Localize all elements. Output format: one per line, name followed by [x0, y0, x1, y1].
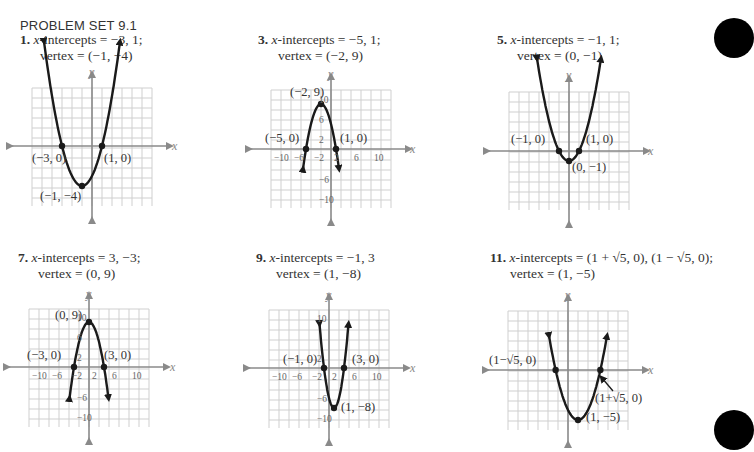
svg-text:−6: −6	[292, 372, 302, 382]
key-point	[303, 146, 309, 152]
svg-text:6: 6	[352, 372, 357, 382]
point-label: (−5, 0)	[265, 131, 299, 145]
y-axis-label: y	[564, 288, 571, 302]
point-label: (−2, 9)	[290, 85, 324, 99]
y-axis-label: y	[565, 68, 572, 82]
svg-text:−6: −6	[294, 153, 304, 163]
key-point	[59, 143, 65, 149]
key-point	[86, 319, 92, 325]
key-point	[101, 364, 107, 370]
svg-text:2: 2	[334, 153, 339, 163]
point-label: (0, −1)	[572, 160, 606, 174]
svg-text:6: 6	[77, 333, 82, 343]
svg-text:−10: −10	[77, 413, 92, 423]
y-axis-label: y	[325, 288, 332, 302]
svg-text:−6: −6	[52, 371, 62, 381]
svg-text:6: 6	[112, 371, 117, 381]
page-tab-marker-top	[714, 18, 754, 58]
svg-text:−10: −10	[272, 372, 287, 382]
point-label: (1, 0)	[104, 151, 131, 165]
key-point	[552, 367, 558, 373]
point-label: (1, −5)	[586, 410, 620, 424]
point-label: (−3, 0)	[27, 348, 61, 362]
svg-text:−2: −2	[314, 153, 324, 163]
svg-text:6: 6	[319, 115, 324, 125]
key-point	[99, 143, 105, 149]
x-axis-label: x	[169, 360, 176, 374]
point-label: (1−√5, 0)	[489, 353, 536, 367]
svg-text:10: 10	[372, 372, 382, 382]
svg-text:10: 10	[132, 371, 142, 381]
key-point	[341, 365, 347, 371]
svg-text:−10: −10	[317, 414, 332, 424]
point-label: (1, −8)	[341, 400, 375, 414]
svg-text:6: 6	[354, 153, 359, 163]
svg-text:2: 2	[332, 372, 337, 382]
svg-text:−10: −10	[32, 371, 47, 381]
svg-text:−10: −10	[319, 195, 334, 205]
point-label: (3, 0)	[352, 352, 379, 366]
point-label: (−1, 0)	[511, 132, 545, 146]
svg-text:−6: −6	[317, 394, 327, 404]
svg-text:−2: −2	[72, 371, 82, 381]
key-point	[576, 148, 582, 154]
x-axis-label: x	[647, 363, 654, 377]
y-axis-label: y	[88, 65, 95, 79]
svg-text:2: 2	[317, 354, 322, 364]
svg-text:−10: −10	[274, 153, 289, 163]
point-label: (−1, 0)	[283, 352, 317, 366]
point-label: (1, 0)	[586, 132, 613, 146]
key-point	[71, 364, 77, 370]
x-axis-label: x	[647, 144, 654, 158]
svg-text:10: 10	[374, 153, 384, 163]
svg-text:2: 2	[77, 353, 82, 363]
x-axis-label: x	[409, 361, 416, 375]
x-axis-label: x	[171, 139, 178, 153]
y-axis-label: y	[327, 67, 334, 81]
point-label: (0, 9)	[55, 308, 82, 322]
key-point	[556, 148, 562, 154]
y-axis-label: y	[85, 287, 92, 301]
graph-1: xy	[10, 42, 178, 220]
key-point	[321, 365, 327, 371]
point-label: (−1, −4)	[40, 189, 81, 203]
key-point	[597, 367, 603, 373]
page-tab-marker-bottom	[714, 410, 754, 450]
point-label: (3, 0)	[104, 348, 131, 362]
svg-text:−2: −2	[312, 372, 322, 382]
key-point	[333, 146, 339, 152]
x-axis-label: x	[409, 142, 416, 156]
svg-text:−6: −6	[319, 175, 329, 185]
point-label: (−3, 0)	[32, 151, 66, 165]
svg-text:−6: −6	[77, 393, 87, 403]
svg-text:2: 2	[319, 135, 324, 145]
svg-text:2: 2	[92, 371, 97, 381]
svg-text:10: 10	[317, 314, 327, 324]
point-label: (1, 0)	[340, 131, 367, 145]
key-point	[575, 417, 581, 423]
key-point	[331, 405, 337, 411]
point-label: (1+√5, 0)	[595, 391, 642, 405]
